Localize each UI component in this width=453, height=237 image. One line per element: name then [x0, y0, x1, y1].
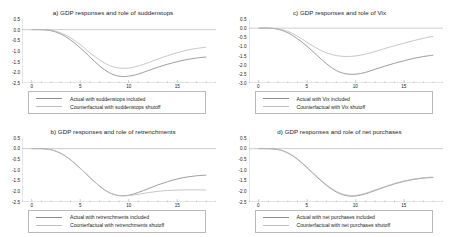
panel-d-plot-svg: [249, 138, 443, 202]
legend-label: Counterfactual with suddenstops shutoff: [70, 104, 161, 110]
legend-label: Actual with suddenstops included: [70, 96, 145, 102]
x-tick-label: 15: [175, 203, 180, 208]
panel-a-plot-svg: [22, 19, 216, 83]
panel-a-plot: [22, 19, 216, 83]
x-tick-label: 0: [30, 203, 33, 208]
y-tick-label: -1.5: [12, 178, 20, 183]
y-tick-label: -0.5: [239, 35, 247, 40]
panel-c-plot: [249, 19, 443, 83]
panel-c-title: c) GDP responses and role of Vix: [227, 9, 453, 16]
legend-label: Counterfactual with net purchases shutof…: [297, 222, 391, 228]
legend-row: Counterfactual with Vix shutoff: [259, 103, 429, 111]
legend-label: Actual with retrenchments included: [70, 214, 149, 220]
legend-line-swatch: [263, 98, 289, 99]
y-tick-label: -2.0: [239, 62, 247, 67]
legend-line-swatch: [263, 217, 289, 218]
legend-row: Actual with suddenstops included: [32, 95, 202, 103]
x-tick-label: 15: [401, 203, 406, 208]
legend-row: Actual with net purchases included: [259, 213, 429, 221]
legend-row: Counterfactual with retrenchments shutof…: [32, 221, 202, 229]
series-line: [258, 28, 433, 74]
x-tick-label: 5: [305, 84, 308, 89]
y-tick-label: -2.5: [12, 81, 20, 86]
legend-label: Counterfactual with Vix shutoff: [297, 104, 366, 110]
legend-line-swatch: [36, 98, 62, 99]
y-tick-label: -2.0: [239, 188, 247, 193]
x-tick-label: 15: [401, 84, 406, 89]
y-tick-label: -1.0: [239, 167, 247, 172]
series-line: [258, 148, 433, 195]
y-tick-label: 0.0: [240, 146, 246, 151]
y-tick-label: -0.5: [239, 156, 247, 161]
series-line: [32, 30, 207, 69]
y-tick-label: 0.0: [240, 26, 246, 31]
legend-row: Counterfactual with suddenstops shutoff: [32, 103, 202, 111]
y-tick-label: -2.0: [12, 188, 20, 193]
panel-c-plot-svg: [249, 19, 443, 83]
panel-b-plot-svg: [22, 138, 216, 202]
y-tick-label: 0.5: [14, 17, 20, 22]
y-tick-label: 0.5: [240, 17, 246, 22]
legend-label: Actual with net purchases included: [297, 214, 375, 220]
y-tick-label: 0.0: [14, 146, 20, 151]
y-tick-label: -2.5: [12, 199, 20, 204]
x-tick-label: 0: [257, 84, 260, 89]
legend-row: Actual with retrenchments included: [32, 213, 202, 221]
series-line: [32, 148, 207, 195]
y-tick-label: -2.5: [239, 71, 247, 76]
panel-b: b) GDP responses and role of retrenchmen…: [0, 119, 226, 237]
legend-row: Actual with Vix included: [259, 95, 429, 103]
panel-d-y-axis-labels: 0.50.0-0.5-1.0-1.5-2.0-2.5: [227, 138, 247, 202]
y-tick-label: -2.5: [239, 199, 247, 204]
panel-b-legend: Actual with retrenchments includedCounte…: [28, 210, 206, 233]
panel-b-y-axis-labels: 0.50.0-0.5-1.0-1.5-2.0-2.5: [0, 138, 20, 202]
panel-d-title: d) GDP responses and role of net purchas…: [227, 128, 453, 135]
panel-a-legend: Actual with suddenstops includedCounterf…: [28, 91, 206, 114]
legend-line-swatch: [36, 217, 62, 218]
x-tick-label: 0: [257, 203, 260, 208]
x-tick-label: 10: [353, 84, 358, 89]
legend-line-swatch: [263, 225, 289, 226]
series-line: [32, 148, 207, 195]
legend-label: Actual with Vix included: [297, 96, 350, 102]
x-tick-label: 0: [30, 84, 33, 89]
y-tick-label: -1.0: [12, 49, 20, 54]
panel-d-legend: Actual with net purchases includedCounte…: [255, 210, 433, 233]
x-tick-label: 5: [305, 203, 308, 208]
y-tick-label: -1.5: [239, 53, 247, 58]
x-tick-label: 10: [126, 203, 131, 208]
series-line: [32, 30, 207, 77]
panel-c-y-axis-labels: 0.50.0-0.5-1.0-1.5-2.0-2.5-3.0: [227, 19, 247, 83]
panel-b-plot: [22, 138, 216, 202]
y-tick-label: -3.0: [239, 81, 247, 86]
panel-b-title: b) GDP responses and role of retrenchmen…: [0, 128, 226, 135]
y-tick-label: 0.0: [14, 27, 20, 32]
panel-c-legend: Actual with Vix includedCounterfactual w…: [255, 91, 433, 114]
y-tick-label: -1.5: [12, 59, 20, 64]
legend-line-swatch: [36, 106, 62, 107]
legend-line-swatch: [263, 106, 289, 107]
y-tick-label: 0.5: [240, 135, 246, 140]
panel-a-title: a) GDP responses and role of suddenstops: [0, 9, 226, 16]
y-tick-label: -1.0: [239, 44, 247, 49]
x-tick-label: 5: [79, 203, 82, 208]
series-line: [258, 28, 433, 56]
panel-a-y-axis-labels: 0.50.0-0.5-1.0-1.5-2.0-2.5: [0, 19, 20, 83]
legend-line-swatch: [36, 225, 62, 226]
legend-row: Counterfactual with net purchases shutof…: [259, 221, 429, 229]
x-tick-label: 15: [175, 84, 180, 89]
y-tick-label: -1.0: [12, 167, 20, 172]
panel-d-plot: [249, 138, 443, 202]
panel-c: c) GDP responses and role of Vix 0.50.0-…: [227, 0, 453, 118]
y-tick-label: 0.5: [14, 135, 20, 140]
series-line: [258, 148, 433, 196]
figure-grid: a) GDP responses and role of suddenstops…: [0, 0, 453, 237]
panel-a: a) GDP responses and role of suddenstops…: [0, 0, 226, 118]
y-tick-label: -1.5: [239, 178, 247, 183]
x-tick-label: 10: [353, 203, 358, 208]
y-tick-label: -0.5: [12, 156, 20, 161]
panel-d: d) GDP responses and role of net purchas…: [227, 119, 453, 237]
x-tick-label: 10: [126, 84, 131, 89]
x-tick-label: 5: [79, 84, 82, 89]
y-tick-label: -2.0: [12, 70, 20, 75]
